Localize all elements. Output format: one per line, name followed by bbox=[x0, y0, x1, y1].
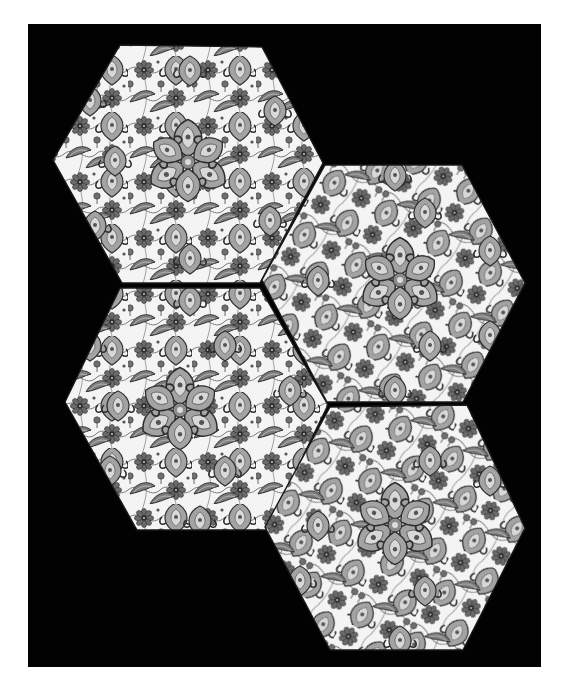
tile-photograph bbox=[0, 0, 565, 695]
